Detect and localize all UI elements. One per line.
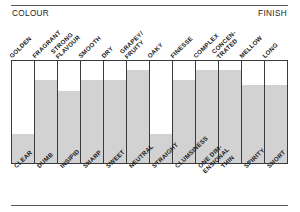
- positive-label: SMOOTH: [77, 35, 102, 60]
- chart-column[interactable]: [35, 61, 58, 163]
- chart-column[interactable]: [265, 61, 287, 163]
- colour-axis-label: COLOUR: [12, 8, 49, 20]
- positive-label: GRAPEY/ FRUITY: [119, 30, 149, 60]
- positive-label: GOLDEN: [8, 36, 33, 60]
- positive-label: MELLOW: [239, 35, 264, 60]
- top-divider-rule: [11, 5, 288, 6]
- positive-label: LONG: [262, 42, 280, 60]
- positive-label: OAKY: [146, 42, 164, 60]
- positive-attribute-labels: GOLDENFRAGRANTSTRONG FLAVOURSMOOTHDRYGRA…: [11, 20, 288, 60]
- finish-axis-label: FINISH: [258, 8, 287, 20]
- negative-attribute-labels: CLEARDUMBINSIPIDSHARPSWEETNEUTRALSTRAIGH…: [11, 165, 288, 205]
- tasting-profile-chart: COLOUR FINISH GOLDENFRAGRANTSTRONG FLAVO…: [0, 0, 300, 212]
- chart-column[interactable]: [58, 61, 81, 163]
- chart-column[interactable]: [12, 61, 35, 163]
- axis-header-row: COLOUR FINISH: [11, 8, 288, 20]
- positive-label: DRY: [100, 46, 114, 60]
- positive-label: FINESSE: [169, 36, 194, 60]
- chart-column[interactable]: [104, 61, 127, 163]
- chart-column[interactable]: [81, 61, 104, 163]
- bottom-divider-rule: [11, 205, 288, 206]
- bar-fill: [35, 80, 57, 163]
